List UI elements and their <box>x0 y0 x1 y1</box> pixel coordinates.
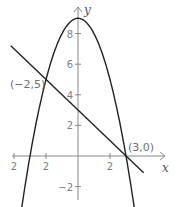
point-label-intersection-left: (−2,5) <box>10 78 45 91</box>
y-tick-label: 2 <box>67 120 73 131</box>
x-axis: x <box>12 152 169 175</box>
x-tick-label: 2 <box>107 161 113 172</box>
y-tick-label: 6 <box>67 59 73 70</box>
x-tick-label: 2 <box>43 161 49 172</box>
y-axis: y <box>74 3 91 200</box>
y-axis-label: y <box>83 3 91 17</box>
x-tick-label: 2 <box>11 161 17 172</box>
x-axis-label: x <box>162 161 169 175</box>
y-tick-label: 4 <box>67 90 73 101</box>
ticks: 2228642−2 <box>11 29 113 193</box>
y-tick-label: −2 <box>58 182 73 193</box>
chart: x y 2228642−2 (−2,5) (3,0) <box>0 0 176 207</box>
y-tick-label: 8 <box>67 29 73 40</box>
point-label-intersection-right: (3,0) <box>128 141 154 154</box>
